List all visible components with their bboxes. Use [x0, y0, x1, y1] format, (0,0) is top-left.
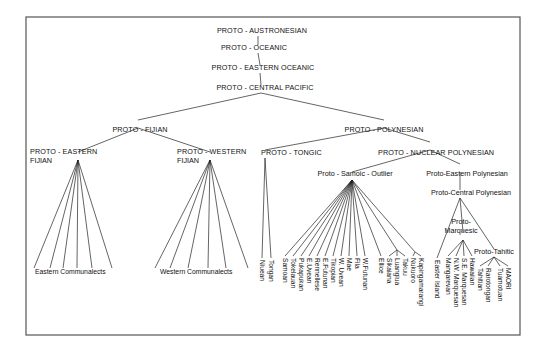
leaf-language: Rarotongan: [484, 268, 492, 303]
leaf-language: Tuamotuan: [497, 268, 504, 301]
node-ppn: PROTO - POLYNESIAN: [344, 125, 423, 134]
leaf-language: Luangiua: [393, 258, 401, 285]
leaf-language: E.Futunan: [322, 258, 329, 289]
communalect-group-label: Western Communalects: [160, 268, 233, 275]
leaf-language: N.W. Marquesan: [452, 258, 460, 307]
leaf-language: Takuu: [402, 258, 409, 276]
node-pef-line2: FIJIAN: [30, 156, 52, 165]
node-pto: PROTO - TONGIC: [261, 148, 322, 157]
leaf-language: Kapingamarangi: [417, 258, 425, 307]
leaf-language: Tikopian: [329, 258, 337, 283]
node-pan: PROTO - AUSTRONESIAN: [217, 26, 307, 35]
node-pso: Proto - Samoic - Outlier: [317, 169, 393, 178]
node-pwf: PROTO - WESTERN: [177, 147, 246, 156]
node-pcpn: Proto-Central Polynesian: [431, 188, 511, 197]
node-pwf-line2: FIJIAN: [177, 156, 199, 165]
leaf-language: Niuean: [259, 260, 266, 281]
leaf-language: E.Uvean: [306, 258, 313, 284]
leaf-language: Tongan: [267, 260, 275, 282]
node-peo: PROTO - EASTERN OCEANIC: [212, 63, 315, 72]
leaf-language: Hawaiian: [469, 258, 476, 285]
leaf-language: Easter Island: [434, 260, 441, 299]
node-pcp: PROTO - CENTRAL PACIFIC: [216, 83, 313, 92]
leaf-language: Mangarevan: [444, 258, 452, 295]
leaf-language: Pukapukan: [297, 258, 305, 291]
leaf-language: W.Futunan: [362, 258, 369, 290]
node-pef: PROTO - EASTERN: [30, 147, 97, 156]
leaf-language: Ellice: [378, 258, 385, 274]
communalect-group-label: Eastern Communalects: [35, 268, 106, 275]
leaf-language: Fila: [354, 258, 361, 269]
node-pfj: PROTO - FIJIAN: [112, 125, 167, 134]
leaf-language: Nukuoro: [410, 258, 417, 283]
node-pmq-line2: Marquesic: [444, 226, 478, 235]
leaf-language: Samoan: [282, 258, 289, 283]
node-poc: PROTO - OCEANIC: [221, 43, 287, 52]
node-pth: Proto-Tahitic: [474, 247, 514, 256]
language-tree-diagram: PROTO - AUSTRONESIANPROTO - OCEANICPROTO…: [0, 0, 551, 352]
node-pep: Proto-Eastern Polynesian: [426, 169, 508, 178]
node-pmq: Proto-: [451, 217, 471, 226]
leaf-language: Mae: [346, 258, 353, 271]
node-pnp: PROTO - NUCLEAR POLYNESIAN: [378, 148, 494, 157]
leaf-language: Tokelauan: [290, 258, 297, 288]
leaf-language: MAORI: [505, 268, 512, 290]
leaf-language: W. Uvean: [338, 258, 345, 287]
leaf-language: S.E. Marquesan: [460, 258, 468, 306]
leaf-language: Rennellese: [314, 258, 321, 291]
leaf-language: Tahitian: [477, 268, 484, 291]
leaf-language: Sikaiana: [386, 258, 393, 284]
